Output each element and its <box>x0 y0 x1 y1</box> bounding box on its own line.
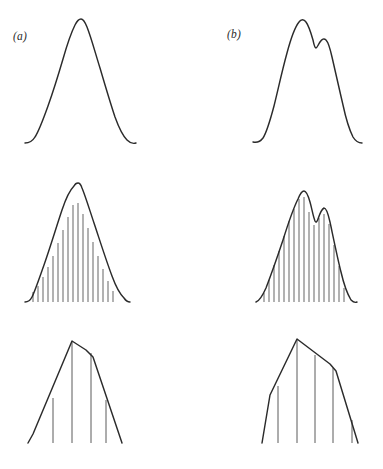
panel-a-fine <box>25 183 130 302</box>
panel-a-smooth <box>25 19 136 143</box>
density-curve-b-fine <box>256 191 357 302</box>
figure-canvas <box>0 0 383 469</box>
density-curve-a-smooth <box>25 19 136 143</box>
density-curve-b-smooth <box>253 20 362 143</box>
panel-b-fine <box>256 191 357 302</box>
figure-root: (a) (b) <box>0 0 383 469</box>
density-outline-a-coarse <box>28 341 122 443</box>
histogram-bars-b-fine <box>264 197 344 302</box>
panel-a-coarse <box>28 341 122 443</box>
histogram-bars-a-coarse <box>53 342 106 443</box>
density-curve-a-fine <box>25 183 130 302</box>
panel-b-smooth <box>253 20 362 143</box>
panel-b-coarse <box>262 339 358 443</box>
density-outline-b-coarse <box>262 339 358 443</box>
histogram-bars-a-fine <box>33 203 113 302</box>
